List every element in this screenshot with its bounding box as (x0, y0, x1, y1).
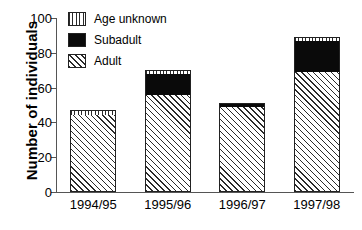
bar-segment-age-unknown (70, 110, 116, 115)
x-axis-label-1994-95: 1994/95 (50, 198, 136, 211)
diagonal-hatch-swatch (68, 54, 86, 68)
vertical-lines-swatch (68, 12, 86, 26)
y-axis-tick-label: 0 (12, 186, 52, 199)
x-axis-line (56, 192, 354, 193)
stacked-bar[interactable] (219, 103, 265, 192)
bar-segment-adult (145, 95, 191, 192)
legend-item: Subadult (68, 31, 218, 49)
legend-item: Age unknown (68, 10, 218, 28)
stacked-bar[interactable] (294, 37, 340, 192)
legend-item: Adult (68, 52, 218, 70)
y-axis-tick-label: 20 (12, 151, 52, 164)
x-axis-tick-labels: 1994/951995/961996/971997/98 (56, 198, 354, 218)
solid-black-swatch (68, 33, 86, 47)
legend-item-label: Adult (94, 55, 121, 67)
x-axis-label-1996-97: 1996/97 (199, 198, 285, 211)
bar-segment-age-unknown (294, 37, 340, 40)
y-axis-tick-label: 80 (12, 47, 52, 60)
bar-segment-subadult (219, 103, 265, 106)
bar-slot (280, 18, 355, 192)
bar-segment-adult (219, 107, 265, 192)
y-axis-title: Number of individuals (23, 6, 40, 196)
y-axis-tick-label: 60 (12, 82, 52, 95)
y-axis-tick-label: 100 (12, 12, 52, 25)
x-axis-label-1995-96: 1995/96 (125, 198, 211, 211)
bar-segment-subadult (294, 41, 340, 72)
bar-segment-adult (70, 115, 116, 192)
chart-figure: Number of individuals 020406080100 1994/… (0, 0, 362, 230)
x-axis-label-1997-98: 1997/98 (274, 198, 360, 211)
chart-legend: Age unknownSubadultAdult (68, 10, 218, 73)
legend-item-label: Subadult (94, 34, 141, 46)
bar-segment-subadult (145, 74, 191, 95)
legend-item-label: Age unknown (94, 13, 167, 25)
y-axis-tick-label: 40 (12, 116, 52, 129)
bar-segment-adult (294, 72, 340, 192)
stacked-bar[interactable] (70, 110, 116, 192)
stacked-bar[interactable] (145, 70, 191, 192)
